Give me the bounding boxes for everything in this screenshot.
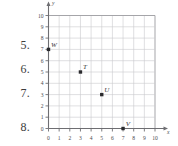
axis-layer: xy	[47, 0, 171, 135]
coordinate-plane: xy 012345678910012345678910 WTUV	[0, 0, 178, 146]
y-tick-label: 0	[41, 126, 44, 132]
grid-layer	[49, 16, 156, 129]
plotted-point-u	[100, 93, 103, 96]
x-tick-label: 7	[122, 135, 125, 141]
x-tick-label: 9	[143, 135, 146, 141]
y-axis-label: y	[51, 0, 55, 6]
point-label-v: V	[126, 120, 131, 128]
plotted-point-w	[47, 48, 50, 51]
y-axis-arrow	[47, 2, 51, 7]
x-tick-label: 10	[152, 135, 158, 141]
point-label-w: W	[51, 41, 58, 49]
coordinate-plane-svg: xy 012345678910012345678910 WTUV	[0, 0, 178, 146]
y-tick-label: 10	[38, 13, 44, 19]
y-tick-label: 4	[41, 80, 44, 86]
x-tick-label: 1	[58, 135, 61, 141]
y-tick-label: 2	[41, 103, 44, 109]
x-tick-label: 2	[68, 135, 71, 141]
x-tick-label: 0	[47, 135, 50, 141]
y-tick-label: 9	[41, 24, 44, 30]
x-axis-label: x	[166, 129, 170, 135]
y-tick-label: 7	[41, 46, 44, 52]
y-tick-label: 6	[41, 58, 44, 64]
plotted-point-v	[121, 127, 124, 130]
y-tick-label: 5	[41, 69, 44, 75]
point-label-u: U	[104, 86, 110, 94]
point-label-t: T	[83, 63, 88, 71]
x-tick-label: 4	[90, 135, 93, 141]
plotted-point-t	[79, 70, 82, 73]
worksheet-figure: 5.6.7.8. xy 012345678910012345678910 WTU…	[0, 0, 178, 146]
x-tick-label: 5	[100, 135, 103, 141]
x-tick-label: 3	[79, 135, 82, 141]
y-tick-label: 3	[41, 92, 44, 98]
x-tick-label: 6	[111, 135, 114, 141]
x-tick-label: 8	[132, 135, 135, 141]
y-tick-label: 8	[41, 35, 44, 41]
tick-label-layer: 012345678910012345678910	[38, 13, 158, 141]
y-tick-label: 1	[41, 114, 44, 120]
